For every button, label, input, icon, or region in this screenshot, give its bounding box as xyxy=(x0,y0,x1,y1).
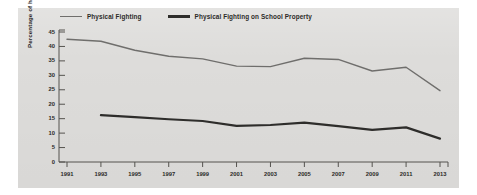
chart-plot-area xyxy=(0,0,477,195)
axis-lines xyxy=(59,30,448,167)
data-series-group xyxy=(67,39,440,138)
chart-screenshot: Physical Fighting Physical Fighting on S… xyxy=(0,0,477,195)
data-series-line-1 xyxy=(101,115,440,138)
data-series-line-0 xyxy=(67,39,440,90)
